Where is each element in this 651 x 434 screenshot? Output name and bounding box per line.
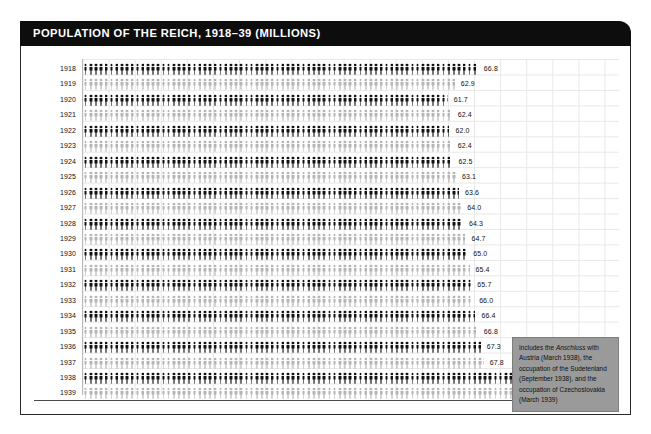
row-year-label: 1932 — [34, 281, 76, 288]
bar-value-label: 63.1 — [462, 173, 476, 180]
row-year-label: 1918 — [34, 65, 76, 72]
chart-row: 192864.3 — [34, 216, 619, 232]
bar-value-label: 62.4 — [458, 111, 472, 118]
row-year-label: 1935 — [34, 328, 76, 335]
bar-value-label: 62.0 — [455, 127, 469, 134]
chart-bar — [83, 372, 528, 384]
chart-bar — [83, 233, 465, 245]
bar-value-label: 65.7 — [477, 281, 491, 288]
chart-bar — [83, 187, 459, 199]
chart-body: 191866.8191962.9192061.7192162.4192262.0… — [20, 46, 631, 415]
bar-value-label: 62.4 — [458, 142, 472, 149]
chart-plot-area: 191866.8191962.9192061.7192162.4192262.0… — [34, 59, 619, 399]
chart-bar — [83, 140, 452, 152]
chart-row: 192764.0 — [34, 200, 619, 216]
bar-value-label: 65.4 — [476, 266, 490, 273]
row-year-label: 1922 — [34, 127, 76, 134]
chart-bar — [83, 295, 473, 307]
chart-row: 191866.8 — [34, 61, 619, 77]
chart-header-bar: POPULATION OF THE REICH, 1918–39 (MILLIO… — [20, 21, 631, 46]
row-year-label: 1939 — [34, 389, 76, 396]
chart-annotation-note: Includes the Anschluss with Austria (Mar… — [512, 337, 619, 412]
bar-value-label: 66.4 — [481, 312, 495, 319]
bar-value-label: 64.0 — [467, 204, 481, 211]
chart-bar — [83, 78, 455, 90]
chart-row: 192663.6 — [34, 185, 619, 201]
chart-row: 193366.0 — [34, 293, 619, 309]
chart-row: 192061.7 — [34, 92, 619, 108]
bar-value-label: 67.8 — [490, 359, 504, 366]
chart-row: 192162.4 — [34, 107, 619, 123]
bar-value-label: 65.0 — [473, 250, 487, 257]
chart-row: 193065.0 — [34, 246, 619, 262]
chart-bar — [83, 171, 456, 183]
chart-bar — [83, 326, 478, 338]
row-year-label: 1925 — [34, 173, 76, 180]
chart-row: 191962.9 — [34, 76, 619, 92]
bar-value-label: 62.5 — [458, 158, 472, 165]
bar-value-label: 63.6 — [465, 189, 479, 196]
row-year-label: 1924 — [34, 158, 76, 165]
row-year-label: 1937 — [34, 359, 76, 366]
annotation-text-part1: Includes the — [519, 344, 556, 351]
row-year-label: 1921 — [34, 111, 76, 118]
page-title: POPULATION OF THE REICH, 1918–39 (MILLIO… — [33, 27, 321, 39]
chart-card: POPULATION OF THE REICH, 1918–39 (MILLIO… — [20, 21, 631, 415]
row-year-label: 1938 — [34, 374, 76, 381]
chart-bar — [83, 125, 449, 137]
chart-row: 193165.4 — [34, 262, 619, 278]
annotation-text-part2: with Austria (March 1938), the occupatio… — [519, 344, 607, 403]
row-year-label: 1934 — [34, 312, 76, 319]
row-year-label: 1928 — [34, 220, 76, 227]
bar-value-label: 66.8 — [484, 65, 498, 72]
chart-row: 193265.7 — [34, 277, 619, 293]
bar-value-label: 66.0 — [479, 297, 493, 304]
chart-bar — [83, 202, 461, 214]
row-year-label: 1931 — [34, 266, 76, 273]
chart-bar — [83, 279, 471, 291]
chart-row: 192362.4 — [34, 138, 619, 154]
chart-bar — [83, 218, 463, 230]
chart-bar — [83, 248, 467, 260]
chart-bar — [83, 357, 484, 369]
chart-bar — [83, 264, 470, 276]
chart-bar — [83, 310, 475, 322]
row-year-label: 1930 — [34, 250, 76, 257]
row-year-label: 1927 — [34, 204, 76, 211]
bar-value-label: 61.7 — [454, 96, 468, 103]
chart-row: 192462.5 — [34, 154, 619, 170]
row-year-label: 1923 — [34, 142, 76, 149]
bar-value-label: 66.8 — [484, 328, 498, 335]
row-year-label: 1933 — [34, 297, 76, 304]
bar-value-label: 67.3 — [487, 343, 501, 350]
chart-bar — [83, 341, 481, 353]
chart-bar — [83, 156, 452, 168]
row-year-label: 1920 — [34, 96, 76, 103]
row-year-label: 1929 — [34, 235, 76, 242]
row-year-label: 1926 — [34, 189, 76, 196]
chart-row: 192262.0 — [34, 123, 619, 139]
chart-row: 193466.4 — [34, 308, 619, 324]
chart-bar — [83, 94, 448, 106]
row-year-label: 1936 — [34, 343, 76, 350]
chart-bar — [83, 63, 478, 75]
annotation-emphasis: Anschluss — [556, 344, 586, 351]
bar-value-label: 64.7 — [471, 235, 485, 242]
bar-value-label: 62.9 — [461, 80, 475, 87]
row-year-label: 1919 — [34, 80, 76, 87]
bar-value-label: 64.3 — [469, 220, 483, 227]
chart-bar — [83, 109, 452, 121]
chart-row: 192563.1 — [34, 169, 619, 185]
chart-row: 192964.7 — [34, 231, 619, 247]
